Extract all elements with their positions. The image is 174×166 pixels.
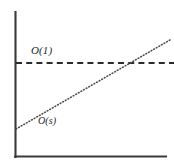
constant-series-label-text: O(1)	[31, 44, 52, 56]
constant-series-label: O(1)	[31, 45, 52, 56]
linear-series-label: O(s)	[38, 116, 56, 126]
asymptotic-complexity-figure: O(1) O(s)	[0, 0, 174, 166]
linear-series-label-text: O(s)	[38, 115, 56, 126]
plot-area	[0, 0, 174, 166]
